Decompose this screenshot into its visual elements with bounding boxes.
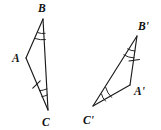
vertex-label-b: B [37, 2, 46, 14]
segment-a-prime-c-prime [93, 85, 130, 106]
triangle-a-prime-b-prime-c-prime [93, 36, 139, 106]
tick-mark-a-prime-b-prime [129, 60, 139, 62]
angle-arc-c-outer [42, 95, 47, 97]
triangle-abc [26, 19, 48, 110]
angle-arc-b-prime-inner [124, 55, 134, 58]
angle-arc-c-inner [39, 89, 47, 91]
segment-b-prime-c-prime [93, 36, 137, 106]
angle-arc-c-prime-inner [106, 87, 112, 97]
vertex-label-c-prime: C' [83, 114, 94, 126]
segment-ab [26, 19, 43, 58]
geometry-figure: A B C A' B' C' [0, 0, 161, 130]
vertex-label-b-prime: B' [137, 20, 149, 32]
vertex-label-a: A [11, 52, 20, 64]
angle-arc-b-prime-outer [128, 49, 135, 51]
vertex-label-c: C [42, 116, 50, 128]
vertex-label-a-prime: A' [133, 85, 145, 97]
geometry-canvas: A B C A' B' C' [0, 0, 161, 130]
